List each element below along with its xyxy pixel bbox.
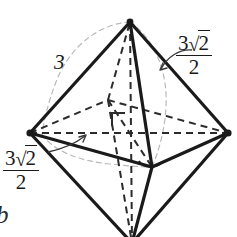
fraction-denominator: 2 (176, 56, 212, 78)
hidden-vertical-axis (130, 22, 132, 237)
label-subfigure-letter: b (0, 202, 9, 227)
radicand-value: 2 (25, 145, 37, 170)
edge-front-to-right (152, 133, 228, 167)
edge-left-to-front (30, 133, 152, 167)
radical-sign-icon: √ (16, 148, 27, 170)
vertex-dot-top-apex (127, 19, 134, 26)
fraction-numerator: 3√2 (176, 33, 212, 56)
label-half-diagonal-measure: 3√2 2 (3, 148, 39, 193)
numerator-coefficient: 3 (178, 31, 189, 55)
label-circumradius-measure: 3√2 2 (176, 33, 212, 78)
fraction-top-right: 3√2 2 (176, 33, 212, 78)
edge-front-to-bottom-apex (132, 167, 152, 237)
label-edge-length-three: 3 (54, 52, 65, 73)
numerator-coefficient: 3 (5, 146, 16, 170)
fraction-numerator: 3√2 (3, 148, 39, 171)
fraction-denominator: 2 (3, 171, 39, 193)
radical-sign-icon: √ (189, 33, 200, 55)
vertex-dot-right (224, 129, 231, 136)
fraction-bottom-left: 3√2 2 (3, 148, 39, 193)
edge-top-apex-to-left (30, 22, 130, 133)
radicand-value: 2 (198, 30, 210, 55)
hidden-edge-left-to-back (30, 100, 108, 133)
hidden-edge-back-to-right (108, 100, 228, 133)
vertex-dot-left (26, 129, 33, 136)
